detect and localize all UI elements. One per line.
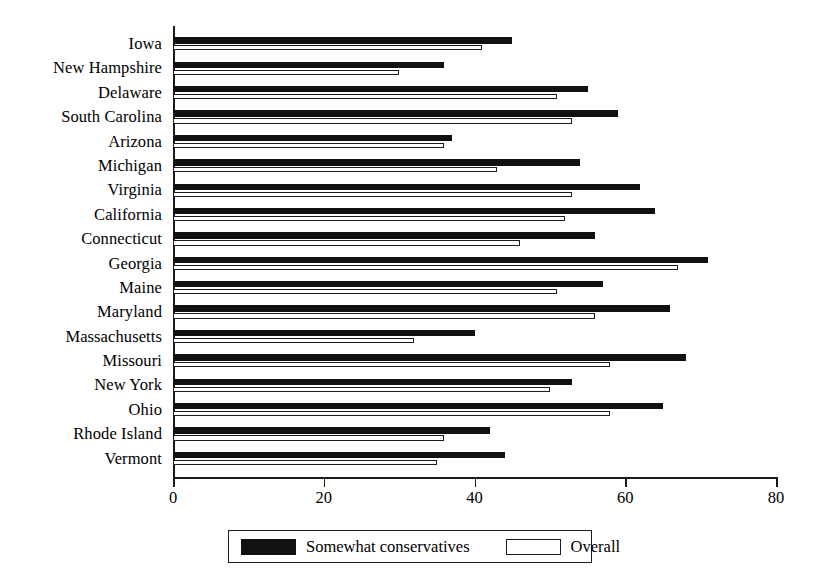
- bar-overall: [173, 216, 565, 221]
- bar-somewhat-conservatives: [173, 354, 686, 360]
- legend-item-overall: Overall: [506, 537, 620, 557]
- y-axis-label: New Hampshire: [0, 56, 168, 80]
- bar-somewhat-conservatives: [173, 452, 505, 458]
- bar-overall: [173, 94, 557, 99]
- bar-somewhat-conservatives: [173, 62, 444, 68]
- bar-overall: [173, 45, 482, 50]
- bar-overall: [173, 192, 572, 197]
- x-axis-tick: [475, 479, 477, 487]
- bar-somewhat-conservatives: [173, 379, 572, 385]
- bar-group: [173, 349, 776, 373]
- bar-somewhat-conservatives: [173, 37, 512, 43]
- bar-somewhat-conservatives: [173, 135, 452, 141]
- bar-group: [173, 252, 776, 276]
- x-axis-tick: [776, 479, 778, 487]
- x-axis-tick-label: 20: [294, 488, 354, 508]
- x-axis-tick: [173, 479, 175, 487]
- bar-somewhat-conservatives: [173, 403, 663, 409]
- bar-overall: [173, 362, 610, 367]
- x-axis-tick: [625, 479, 627, 487]
- bar-overall: [173, 338, 414, 343]
- y-axis-label: Maryland: [0, 300, 168, 324]
- y-axis-label: California: [0, 203, 168, 227]
- bar-group: [173, 276, 776, 300]
- bar-somewhat-conservatives: [173, 305, 670, 311]
- bar-somewhat-conservatives: [173, 159, 580, 165]
- bar-overall: [173, 435, 444, 440]
- bar-group: [173, 178, 776, 202]
- y-axis-label: Connecticut: [0, 227, 168, 251]
- bar-overall: [173, 411, 610, 416]
- bar-somewhat-conservatives: [173, 86, 588, 92]
- bar-somewhat-conservatives: [173, 330, 475, 336]
- bar-overall: [173, 167, 497, 172]
- bar-group: [173, 56, 776, 80]
- y-axis-label: Maine: [0, 276, 168, 300]
- y-axis-category-labels: Iowa New Hampshire Delaware South Caroli…: [0, 32, 168, 472]
- bar-overall: [173, 265, 678, 270]
- filled-black-swatch-icon: [241, 539, 296, 555]
- y-axis-label: Virginia: [0, 178, 168, 202]
- bar-somewhat-conservatives: [173, 184, 640, 190]
- bar-overall: [173, 118, 572, 123]
- bar-overall: [173, 313, 595, 318]
- x-axis-tick-label: 40: [445, 488, 505, 508]
- bar-rows: [173, 32, 776, 472]
- bar-group: [173, 130, 776, 154]
- bar-somewhat-conservatives: [173, 427, 490, 433]
- y-axis-label: Rhode Island: [0, 422, 168, 446]
- bar-group: [173, 300, 776, 324]
- y-axis-label: Delaware: [0, 81, 168, 105]
- y-axis-label: New York: [0, 373, 168, 397]
- outlined-white-swatch-icon: [506, 539, 561, 555]
- bar-group: [173, 81, 776, 105]
- bar-somewhat-conservatives: [173, 257, 708, 263]
- y-axis-label: Missouri: [0, 349, 168, 373]
- bar-group: [173, 32, 776, 56]
- x-axis-tick-label: 80: [746, 488, 806, 508]
- legend: Somewhat conservatives Overall: [228, 530, 592, 563]
- bar-group: [173, 203, 776, 227]
- bar-overall: [173, 387, 550, 392]
- plot-area: [173, 32, 776, 477]
- y-axis-label: South Carolina: [0, 105, 168, 129]
- bar-group: [173, 227, 776, 251]
- x-axis-tick: [324, 479, 326, 487]
- y-axis-label: Iowa: [0, 32, 168, 56]
- horizontal-bar-chart: Iowa New Hampshire Delaware South Caroli…: [0, 0, 820, 587]
- y-axis-label: Arizona: [0, 130, 168, 154]
- bar-group: [173, 105, 776, 129]
- bar-overall: [173, 143, 444, 148]
- x-axis-tick-label: 0: [143, 488, 203, 508]
- x-axis-tick-label: 60: [595, 488, 655, 508]
- y-axis-label: Michigan: [0, 154, 168, 178]
- legend-item-label: Overall: [571, 537, 620, 557]
- y-axis-label: Georgia: [0, 252, 168, 276]
- bar-group: [173, 154, 776, 178]
- bar-group: [173, 373, 776, 397]
- bar-overall: [173, 460, 437, 465]
- y-axis-label: Vermont: [0, 447, 168, 471]
- bar-somewhat-conservatives: [173, 281, 603, 287]
- bar-overall: [173, 289, 557, 294]
- bar-group: [173, 398, 776, 422]
- bar-overall: [173, 70, 399, 75]
- bar-group: [173, 325, 776, 349]
- y-axis-label: Ohio: [0, 398, 168, 422]
- bar-somewhat-conservatives: [173, 110, 618, 116]
- legend-item-somewhat-conservatives: Somewhat conservatives: [241, 537, 470, 557]
- bar-somewhat-conservatives: [173, 208, 655, 214]
- bar-group: [173, 422, 776, 446]
- legend-item-label: Somewhat conservatives: [306, 537, 470, 557]
- bar-overall: [173, 240, 520, 245]
- bar-group: [173, 447, 776, 471]
- y-axis-label: Massachusetts: [0, 325, 168, 349]
- bar-somewhat-conservatives: [173, 232, 595, 238]
